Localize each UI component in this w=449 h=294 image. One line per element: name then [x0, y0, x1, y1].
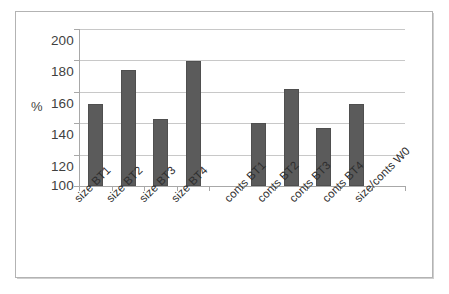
x-axis-ticks — [79, 186, 405, 191]
bar-size-bt4[interactable] — [186, 61, 201, 186]
bar-size-bt3[interactable] — [153, 119, 168, 186]
y-tick-label-180: 180 — [34, 64, 74, 79]
bar-size-bt1[interactable] — [88, 104, 103, 186]
x-tick-5 — [242, 186, 243, 191]
x-tick-6 — [275, 186, 276, 191]
x-tick-8 — [340, 186, 341, 191]
x-tick-9 — [372, 186, 373, 191]
y-tick-label-140: 140 — [34, 127, 74, 142]
bar-conts-bt1[interactable] — [251, 123, 266, 186]
bar-size-bt2[interactable] — [121, 70, 136, 186]
x-tick-1 — [112, 186, 113, 191]
x-tick-7 — [307, 186, 308, 191]
y-tick-label-160: 160 — [34, 96, 74, 111]
x-tick-10 — [405, 186, 406, 191]
bars-layer — [79, 29, 405, 186]
bar-conts-bt3[interactable] — [316, 128, 331, 186]
x-tick-0 — [79, 186, 80, 191]
bar-conts-bt2[interactable] — [284, 89, 299, 186]
y-tick-label-120: 120 — [34, 159, 74, 174]
bar-conts-bt4[interactable] — [349, 104, 364, 186]
y-tick-label-200: 200 — [34, 33, 74, 48]
x-tick-2 — [144, 186, 145, 191]
chart-frame: % 200 180 160 140 120 100 — [15, 11, 433, 278]
x-tick-4 — [209, 186, 210, 191]
y-tick-label-100: 100 — [34, 178, 74, 193]
chart-screenshot: % 200 180 160 140 120 100 — [0, 0, 449, 294]
x-tick-3 — [177, 186, 178, 191]
